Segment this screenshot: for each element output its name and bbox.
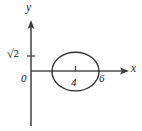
y-tick-label-sqrt2-radicand: 2 — [14, 47, 20, 59]
y-tick-label-sqrt2: √2 — [7, 48, 19, 60]
y-axis-label: y — [26, 2, 31, 14]
origin-label-zero: 0 — [21, 73, 27, 84]
figure-canvas: y x √2 0 4 6 — [0, 0, 142, 131]
graph-plot-area — [0, 0, 142, 131]
x-tick-label-six: 6 — [99, 73, 105, 84]
radical-sign-icon: √ — [7, 47, 14, 61]
x-axis-label: x — [131, 63, 136, 75]
x-tick-label-four: 4 — [71, 77, 77, 88]
